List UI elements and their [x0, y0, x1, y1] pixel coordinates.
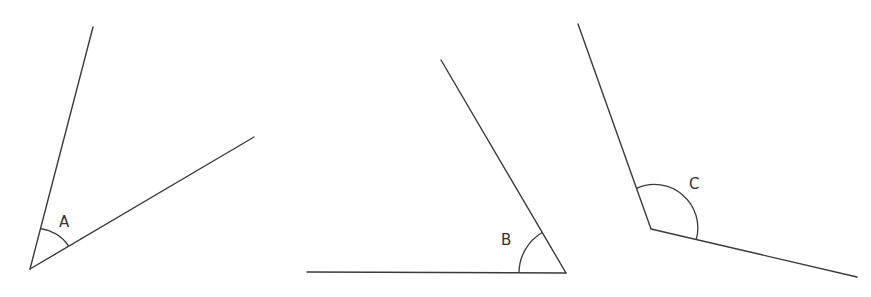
angle-b	[307, 60, 566, 273]
angle-c	[578, 24, 857, 277]
angle-a-ray-1	[30, 27, 93, 269]
angle-b-arc	[519, 233, 542, 273]
angle-b-label: B	[501, 233, 511, 248]
angle-a-label: A	[59, 215, 69, 230]
angle-a-arc	[40, 229, 68, 246]
angle-b-ray-2	[307, 272, 566, 273]
angle-a	[30, 27, 254, 269]
angle-c-ray-1	[578, 24, 651, 229]
angle-c-ray-2	[651, 229, 857, 277]
angle-c-label: C	[689, 177, 699, 192]
angles-diagram	[0, 0, 871, 297]
angle-a-ray-2	[30, 137, 254, 269]
